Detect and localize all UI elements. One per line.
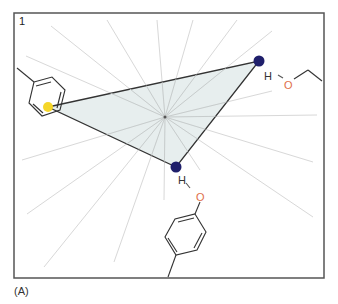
donor-atom-bottom: [171, 162, 182, 173]
hydrogen-label-bottom: H: [178, 174, 186, 186]
center-point: [164, 116, 167, 119]
pharmacophore-figure: H O H O 1 (A): [0, 0, 338, 304]
oxygen-label-top: O: [284, 79, 293, 91]
panel-number: 1: [19, 15, 25, 27]
figure-canvas: H O H O: [0, 0, 338, 304]
aromatic-centroid-marker: [43, 102, 53, 112]
donor-atom-top: [254, 56, 265, 67]
oxygen-label-bottom: O: [196, 191, 205, 203]
panel-caption: (A): [14, 285, 29, 297]
hydrogen-label-top: H: [264, 70, 272, 82]
